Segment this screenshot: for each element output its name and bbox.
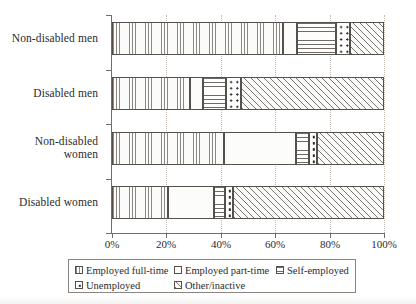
plot-area: [112, 15, 384, 233]
bar-segment-other-inactive: [350, 22, 384, 55]
bar-segment-self-employed: [296, 132, 310, 165]
stacked-bar-chart: Non-disabled men Disabled men Non-disabl…: [0, 0, 416, 304]
x-tick-label-40: 40%: [201, 238, 241, 250]
bar-disabled-men: [112, 77, 384, 110]
legend-item-employed-full-time: Employed full-time: [75, 262, 169, 278]
bar-non-disabled-women: [112, 132, 384, 165]
bar-segment-unemployed: [336, 22, 350, 55]
bar-segment-unemployed: [226, 77, 241, 110]
bar-non-disabled-men: [112, 22, 384, 55]
bar-segment-employed-part-time: [168, 186, 214, 219]
bar-segment-employed-full-time: [112, 22, 283, 55]
bar-segment-self-employed: [203, 77, 226, 110]
page-tint: [0, 296, 416, 304]
y-axis-label-disabled-women: Disabled women: [19, 196, 98, 209]
bar-segment-self-employed: [297, 22, 336, 55]
bar-segment-employed-part-time: [190, 77, 204, 110]
bar-segment-unemployed: [309, 132, 317, 165]
bar-segment-other-inactive: [317, 132, 384, 165]
x-tick-label-60: 60%: [255, 238, 295, 250]
legend-row-1: Employed full-time Employed part-time Se…: [69, 262, 355, 278]
bar-disabled-women: [112, 186, 384, 219]
legend-swatch-employed-full-time-icon: [75, 266, 83, 274]
bar-segment-employed-full-time: [112, 186, 168, 219]
x-axis-line: [111, 233, 384, 234]
legend-swatch-self-employed-icon: [276, 266, 284, 274]
legend-label-unemployed: Unemployed: [86, 280, 140, 291]
x-tick-label-100: 100%: [364, 238, 404, 250]
y-axis-label-disabled-men: Disabled men: [33, 87, 98, 100]
bar-segment-self-employed: [214, 186, 225, 219]
legend-label-other-inactive: Other/inactive: [185, 280, 245, 291]
legend: Employed full-time Employed part-time Se…: [68, 259, 356, 293]
legend-swatch-employed-part-time-icon: [174, 266, 182, 274]
legend-item-other-inactive: Other/inactive: [174, 277, 245, 293]
legend-item-self-employed: Self-employed: [276, 262, 349, 278]
bar-segment-other-inactive: [241, 77, 384, 110]
bar-segment-employed-full-time: [112, 132, 224, 165]
y-axis-label-non-disabled-women: Non-disabled women: [35, 135, 98, 161]
x-tick-label-20: 20%: [146, 238, 186, 250]
legend-item-employed-part-time: Employed part-time: [174, 262, 269, 278]
y-axis-label-non-disabled-men: Non-disabled men: [12, 32, 98, 45]
bar-segment-employed-full-time: [112, 77, 190, 110]
legend-item-unemployed: Unemployed: [75, 277, 140, 293]
legend-swatch-unemployed-icon: [75, 281, 83, 289]
legend-swatch-other-inactive-icon: [174, 281, 182, 289]
x-tick-label-0: 0%: [92, 238, 132, 250]
bar-segment-employed-part-time: [283, 22, 297, 55]
legend-label-self-employed: Self-employed: [287, 265, 349, 276]
legend-label-employed-full-time: Employed full-time: [86, 265, 169, 276]
x-tick-label-80: 80%: [310, 238, 350, 250]
gridline-100: [384, 15, 386, 233]
bar-segment-other-inactive: [233, 186, 384, 219]
legend-label-employed-part-time: Employed part-time: [185, 265, 269, 276]
bar-segment-unemployed: [225, 186, 233, 219]
legend-row-2: Unemployed Other/inactive: [69, 277, 355, 293]
bar-segment-employed-part-time: [224, 132, 296, 165]
